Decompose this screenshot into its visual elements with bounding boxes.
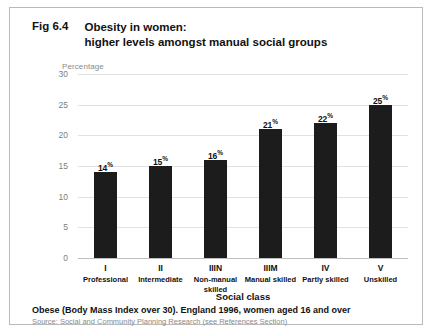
y-axis-tick-label: 20 [38,130,68,140]
bar [369,105,392,258]
figure-title-line-1: Obesity in women: [84,20,327,35]
figure-source: Source: Social and Community Planning Re… [32,317,287,326]
bar-value-label: 16% [193,149,239,161]
bar-value-label: 21% [248,118,294,130]
gridline [78,197,408,198]
figure-number: Fig 6.4 [32,20,68,32]
x-axis-category-V: VUnskilled [348,263,414,285]
figure-card: Fig 6.4 Obesity in women: higher levels … [9,7,423,325]
bar [204,160,227,258]
y-axis-tick-label: 5 [38,222,68,232]
bar-value-label: 25% [358,94,404,106]
gridline [78,227,408,228]
y-axis-tick-label: 30 [38,69,68,79]
bar-value-label: 22% [303,112,349,124]
x-axis-category-name: Unskilled [348,275,414,285]
gridline [78,135,408,136]
x-axis-line [78,258,408,259]
y-axis-title: Percentage [62,62,104,71]
bar [314,123,337,258]
y-axis-tick-label: 0 [38,253,68,263]
bar-value-label: 14% [83,161,129,173]
x-axis-category-code: V [348,263,414,274]
y-axis-tick-label: 25 [38,100,68,110]
figure-footnote: Obese (Body Mass Index over 30). England… [32,305,351,315]
figure-title-block: Fig 6.4 Obesity in women: higher levels … [32,20,412,50]
bar [259,129,282,258]
y-axis-tick-label: 10 [38,192,68,202]
chart-plot-area: 05101520253014%15%16%21%22%25% [78,74,408,258]
figure-title-line-2: higher levels amongst manual social grou… [84,35,327,50]
figure-title: Obesity in women: higher levels amongst … [84,20,327,50]
bar [149,166,172,258]
bar-value-label: 15% [138,155,184,167]
gridline [78,74,408,75]
bar [94,172,117,258]
y-axis-tick-label: 15 [38,161,68,171]
